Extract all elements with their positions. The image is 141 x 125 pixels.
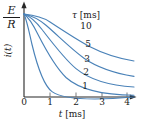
legend-title: τ [ms]: [72, 11, 100, 20]
x-tick-label-4: 4: [120, 98, 134, 107]
y-axis-value-label: E R: [2, 5, 21, 30]
y-axis-arrowhead: [21, 2, 26, 9]
x-tick-label-1: 1: [43, 98, 57, 107]
series-label-tau-1: 1: [78, 82, 92, 91]
x-tick-label-3: 3: [95, 98, 109, 107]
y-axis-value-denominator: R: [2, 19, 21, 31]
x-tick-label-0: 0: [17, 98, 31, 107]
y-axis-title: i(t): [4, 37, 13, 65]
legend-title-unit: [ms]: [80, 10, 100, 20]
series-label-tau-3: 3: [80, 55, 94, 64]
y-axis-value-numerator: E: [2, 5, 21, 17]
x-axis-title-unit: [ms]: [65, 109, 85, 119]
series-label-tau-2: 2: [79, 68, 93, 77]
x-axis-title: t [ms]: [48, 110, 96, 119]
exponential-decay-chart: E R i(t) 0 1 2 3 4 t [ms] τ [ms] 10 5 3 …: [0, 0, 141, 125]
x-tick-label-2: 2: [69, 98, 83, 107]
series-label-tau-10: 10: [79, 22, 93, 31]
series-label-tau-5: 5: [81, 40, 95, 49]
